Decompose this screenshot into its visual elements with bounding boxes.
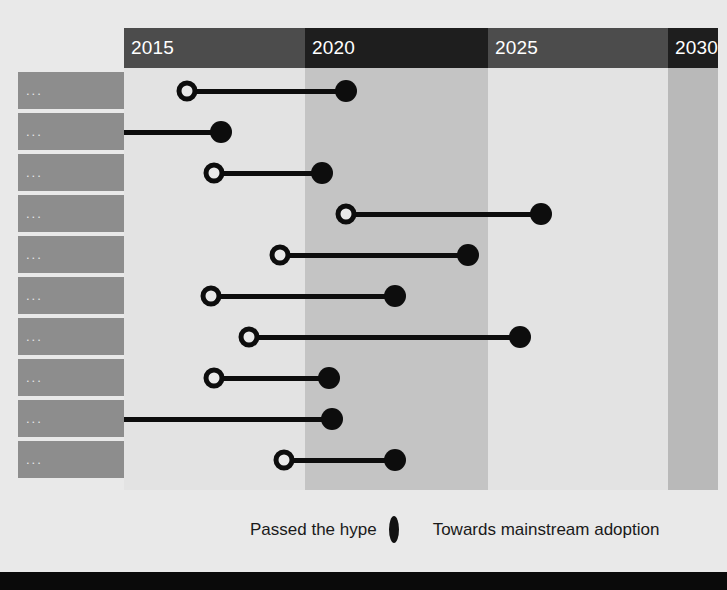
filled-circle-icon[interactable] — [530, 203, 552, 225]
range-connector — [346, 212, 541, 217]
row-track — [124, 400, 718, 437]
row-track — [124, 277, 718, 314]
range-connector — [124, 130, 221, 135]
filled-circle-icon[interactable] — [384, 449, 406, 471]
filled-circle-icon[interactable] — [311, 162, 333, 184]
axis-header: 2015 2020 2025 2030 — [124, 28, 718, 68]
table-row[interactable]: ... — [18, 236, 718, 273]
table-row[interactable]: ... — [18, 72, 718, 109]
row-track — [124, 154, 718, 191]
table-row[interactable]: ... — [18, 400, 718, 437]
range-connector — [124, 417, 332, 422]
open-circle-icon[interactable] — [176, 80, 197, 101]
axis-tick-2030: 2030 — [668, 28, 718, 68]
filled-circle-icon[interactable] — [457, 244, 479, 266]
footer-strip — [0, 572, 727, 590]
legend-label-mainstream: Towards mainstream adoption — [433, 520, 660, 540]
row-label: ... — [18, 236, 124, 273]
table-row[interactable]: ... — [18, 441, 718, 478]
axis-tick-2025: 2025 — [488, 28, 668, 68]
legend-label-passed-hype: Passed the hype — [250, 520, 377, 540]
open-circle-icon[interactable] — [336, 203, 357, 224]
open-circle-icon[interactable] — [200, 285, 221, 306]
range-connector — [211, 294, 395, 299]
table-row[interactable]: ... — [18, 277, 718, 314]
filled-circle-icon[interactable] — [335, 80, 357, 102]
row-label: ... — [18, 359, 124, 396]
row-track — [124, 236, 718, 273]
table-row[interactable]: ... — [18, 318, 718, 355]
row-track — [124, 441, 718, 478]
table-row[interactable]: ... — [18, 154, 718, 191]
open-circle-icon[interactable] — [204, 367, 225, 388]
open-circle-icon[interactable] — [239, 326, 260, 347]
row-track — [124, 195, 718, 232]
filled-circle-icon[interactable] — [210, 121, 232, 143]
axis-tick-2020: 2020 — [305, 28, 488, 68]
row-track — [124, 72, 718, 109]
row-label: ... — [18, 195, 124, 232]
filled-circle-icon[interactable] — [321, 408, 343, 430]
row-track — [124, 359, 718, 396]
row-label: ... — [18, 154, 124, 191]
filled-circle-icon[interactable] — [509, 326, 531, 348]
row-label: ... — [18, 72, 124, 109]
range-connector — [187, 89, 347, 94]
chart-page: 2015 2020 2025 2030 ....................… — [0, 0, 727, 590]
open-circle-icon[interactable] — [273, 449, 294, 470]
row-track — [124, 318, 718, 355]
row-label: ... — [18, 400, 124, 437]
range-connector — [249, 335, 520, 340]
row-label: ... — [18, 277, 124, 314]
open-circle-icon — [389, 521, 399, 539]
table-row[interactable]: ... — [18, 113, 718, 150]
filled-circle-icon[interactable] — [318, 367, 340, 389]
open-circle-icon[interactable] — [204, 162, 225, 183]
filled-circle-icon[interactable] — [384, 285, 406, 307]
range-connector — [280, 253, 468, 258]
row-label: ... — [18, 318, 124, 355]
table-row[interactable]: ... — [18, 195, 718, 232]
range-connector — [284, 458, 395, 463]
table-row[interactable]: ... — [18, 359, 718, 396]
legend-item-mainstream: Towards mainstream adoption — [433, 520, 672, 540]
range-connector — [214, 376, 329, 381]
open-circle-icon[interactable] — [270, 244, 291, 265]
row-label: ... — [18, 113, 124, 150]
legend-item-passed-hype: Passed the hype — [250, 520, 399, 540]
axis-tick-2015: 2015 — [124, 28, 305, 68]
range-connector — [214, 171, 322, 176]
row-track — [124, 113, 718, 150]
row-label: ... — [18, 441, 124, 478]
chart-legend: Passed the hype Towards mainstream adopt… — [250, 512, 671, 548]
